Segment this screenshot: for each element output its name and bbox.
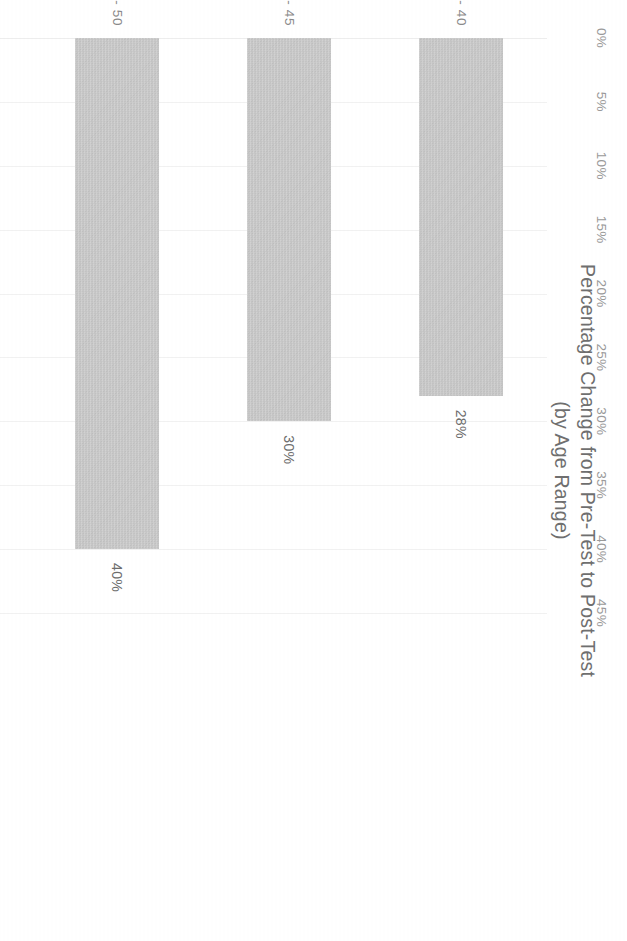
x-axis-tick-label: 25% bbox=[594, 343, 609, 371]
bar-value-label: 28% bbox=[453, 410, 469, 439]
x-axis-tick-label: 20% bbox=[594, 280, 609, 308]
plot-area: 0%5%10%15%20%25%30%35%40%45%36 - 4028%41… bbox=[0, 38, 547, 613]
category-label: 36 - 40 bbox=[453, 0, 468, 26]
x-axis-tick-label: 35% bbox=[594, 471, 609, 499]
bar-row: 41 - 4530% bbox=[203, 38, 375, 613]
chart-subtitle: (by Age Range) bbox=[549, 0, 575, 941]
rotated-page-canvas: Percentage Change from Pre-Test to Post-… bbox=[0, 0, 627, 941]
gridline bbox=[0, 613, 547, 614]
bar[interactable] bbox=[247, 38, 331, 421]
bar[interactable] bbox=[75, 38, 159, 549]
bar-value-label: 30% bbox=[281, 435, 297, 464]
x-axis-tick-label: 45% bbox=[594, 599, 609, 627]
x-axis-tick-label: 0% bbox=[594, 28, 609, 48]
chart-title-block: Percentage Change from Pre-Test to Post-… bbox=[549, 0, 627, 941]
x-axis-tick-label: 10% bbox=[594, 152, 609, 180]
bar-row: 46 - 5040% bbox=[30, 38, 202, 613]
category-label: 41 - 45 bbox=[281, 0, 296, 26]
bar-row: 51 - 5510% bbox=[0, 38, 30, 613]
bar-row: 36 - 4028% bbox=[375, 38, 547, 613]
x-axis-tick-label: 30% bbox=[594, 407, 609, 435]
x-axis-tick-label: 40% bbox=[594, 535, 609, 563]
category-label: 46 - 50 bbox=[109, 0, 124, 26]
bar-chart: Percentage Change from Pre-Test to Post-… bbox=[0, 0, 627, 941]
bar[interactable] bbox=[419, 38, 503, 396]
x-axis-tick-label: 5% bbox=[594, 92, 609, 112]
bar-value-label: 40% bbox=[109, 563, 125, 592]
x-axis-tick-label: 15% bbox=[594, 216, 609, 244]
